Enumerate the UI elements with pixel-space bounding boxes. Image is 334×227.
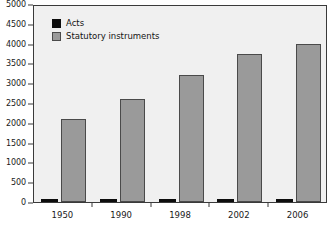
legend-swatch-icon [52, 32, 61, 41]
bar-chart: 0500100015002000250030003500400045005000… [0, 0, 334, 227]
x-tick-label: 1950 [52, 211, 74, 220]
bar-acts-1950 [41, 199, 58, 202]
bar-statutory-instruments-1990 [120, 99, 145, 202]
bar-statutory-instruments-2006 [296, 44, 321, 202]
y-axis: 0500100015002000250030003500400045005000 [0, 0, 33, 227]
legend-item-statutory-instruments: Statutory instruments [52, 31, 159, 42]
x-tick-mark [150, 203, 151, 207]
y-tick-label: 500 [11, 179, 26, 187]
x-tick-mark [209, 203, 210, 207]
y-tick-label: 1500 [6, 140, 26, 148]
x-tick-label: 1990 [110, 211, 132, 220]
legend-item-acts: Acts [52, 18, 159, 29]
y-tick-label: 2000 [6, 120, 26, 128]
y-tick-label: 4500 [6, 21, 26, 29]
x-tick-mark [268, 203, 269, 207]
bar-acts-2002 [217, 199, 234, 202]
x-tick-label: 1998 [169, 211, 191, 220]
y-tick-label: 5000 [6, 1, 26, 9]
x-tick-mark [91, 203, 92, 207]
x-tick-label: 2006 [287, 211, 309, 220]
y-tick-label: 3500 [6, 60, 26, 68]
bar-acts-1998 [159, 199, 176, 202]
bar-acts-1990 [100, 199, 117, 202]
bar-statutory-instruments-1998 [179, 75, 204, 203]
chart-legend: ActsStatutory instruments [52, 18, 159, 44]
x-axis: 19501990199820022006 [33, 203, 327, 227]
x-tick-label: 2002 [228, 211, 250, 220]
plot-area: ActsStatutory instruments [33, 5, 327, 203]
y-tick-label: 3000 [6, 80, 26, 88]
legend-label: Statutory instruments [66, 32, 159, 41]
bar-acts-2006 [276, 199, 293, 202]
bar-statutory-instruments-1950 [61, 119, 86, 202]
bar-statutory-instruments-2002 [237, 54, 262, 202]
legend-label: Acts [66, 19, 84, 28]
y-tick-label: 1000 [6, 159, 26, 167]
legend-swatch-icon [52, 19, 61, 28]
y-tick-label: 2500 [6, 100, 26, 108]
y-tick-label: 4000 [6, 41, 26, 49]
y-tick-label: 0 [21, 199, 26, 207]
